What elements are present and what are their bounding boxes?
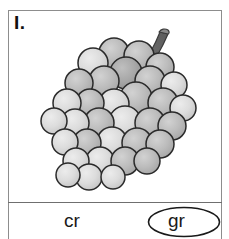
grape-cluster-svg — [8, 11, 222, 201]
answer-choice-gr-label: gr — [168, 205, 185, 237]
worksheet-card: I. — [0, 0, 229, 239]
grape-cluster-illustration — [8, 11, 222, 201]
answer-choice-cr[interactable]: cr — [64, 203, 80, 239]
answer-choice-gr[interactable]: gr — [146, 205, 222, 239]
grape-berries — [41, 38, 196, 190]
answer-choices-row: cr gr — [8, 203, 222, 239]
